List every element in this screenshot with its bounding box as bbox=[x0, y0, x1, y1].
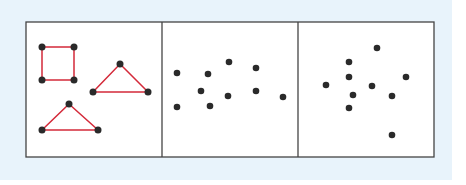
vertex-dot bbox=[39, 44, 46, 51]
vertex-dot bbox=[117, 61, 124, 68]
scatter-dot bbox=[253, 88, 260, 95]
vertex-dot bbox=[145, 89, 152, 96]
scatter-dot bbox=[205, 71, 212, 78]
scatter-dot bbox=[346, 59, 353, 66]
vertex-dot bbox=[71, 77, 78, 84]
scatter-dot bbox=[369, 83, 376, 90]
scatter-dot bbox=[403, 74, 410, 81]
scatter-dot bbox=[350, 92, 357, 99]
panel-frame bbox=[26, 22, 434, 157]
scatter-dot bbox=[198, 88, 205, 95]
scatter-dot bbox=[374, 45, 381, 52]
scatter-dot bbox=[174, 104, 181, 111]
three-panel-diagram bbox=[0, 0, 466, 185]
vertex-dot bbox=[90, 89, 97, 96]
scatter-dot bbox=[280, 94, 287, 101]
vertex-dot bbox=[66, 101, 73, 108]
vertex-dot bbox=[95, 127, 102, 134]
scatter-dot bbox=[174, 70, 181, 77]
scatter-dot bbox=[346, 74, 353, 81]
scatter-dot bbox=[207, 103, 214, 110]
vertex-dot bbox=[39, 127, 46, 134]
vertex-dot bbox=[39, 77, 46, 84]
scatter-dot bbox=[346, 105, 353, 112]
scatter-dot bbox=[323, 82, 330, 89]
scatter-dot bbox=[226, 59, 233, 66]
scatter-dot bbox=[389, 93, 396, 100]
scatter-dot bbox=[225, 93, 232, 100]
scatter-dot bbox=[253, 65, 260, 72]
scatter-dot bbox=[389, 132, 396, 139]
vertex-dot bbox=[71, 44, 78, 51]
